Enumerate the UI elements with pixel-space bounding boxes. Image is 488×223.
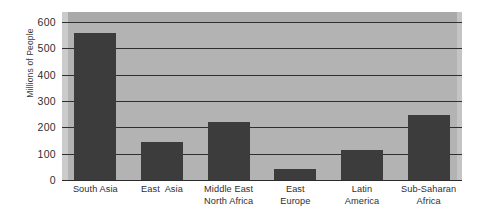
x-tick-label-line1: Middle East [204, 184, 253, 194]
x-tick-label-line1: South Asia [73, 184, 118, 194]
x-axis-line [62, 180, 462, 182]
bar [408, 115, 450, 180]
bar [341, 150, 383, 180]
x-tick-label: Sub-SaharanAfrica [387, 184, 471, 207]
x-tick-label-line1: Latin [352, 184, 372, 194]
y-tick-label: 100 [22, 148, 56, 160]
y-axis-tick-labels: 6005004003002001000 [22, 22, 56, 181]
x-tick-label-line1: East [286, 184, 305, 194]
x-axis-tick-labels: South AsiaEast AsiaMiddle EastNorth Afri… [62, 184, 462, 222]
x-tick-label-line1: Sub-Saharan [401, 184, 456, 194]
y-tick-label: 600 [22, 16, 56, 28]
bar-chart: Millions of People 6005004003002001000 S… [0, 0, 488, 223]
bar [74, 33, 116, 180]
x-tick-label-line1: East Asia [141, 184, 183, 194]
y-tick-label: 500 [22, 42, 56, 54]
y-tick-label: 200 [22, 121, 56, 133]
bar [208, 122, 250, 180]
plot-area [62, 12, 462, 181]
bar [274, 169, 316, 180]
x-tick-label-line2: Africa [387, 196, 471, 208]
y-tick-label: 300 [22, 95, 56, 107]
y-tick-label: 0 [22, 174, 56, 186]
bar [141, 142, 183, 180]
y-tick-label: 400 [22, 69, 56, 81]
bars-group [62, 12, 462, 181]
